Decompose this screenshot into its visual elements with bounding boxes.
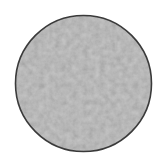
swatch-canvas <box>0 0 163 160</box>
swatch-stage <box>0 0 163 160</box>
